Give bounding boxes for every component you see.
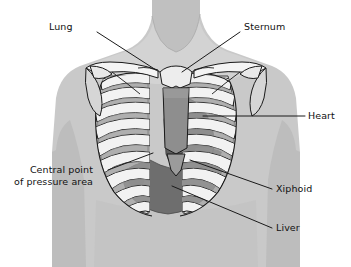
label-lung: Lung — [49, 21, 73, 33]
label-sternum: Sternum — [244, 21, 285, 33]
label-liver: Liver — [276, 222, 300, 234]
label-heart: Heart — [308, 110, 335, 122]
label-central-point: Central point of pressure area — [14, 164, 93, 187]
anatomy-figure: Lung Sternum Heart Central point of pres… — [0, 0, 351, 267]
label-xiphoid: Xiphoid — [276, 183, 312, 195]
